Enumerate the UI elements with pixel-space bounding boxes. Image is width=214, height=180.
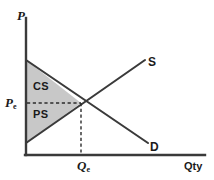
- supply-demand-diagram: P Pe Qe Qty S D CS PS: [0, 0, 214, 180]
- supply-curve-label: S: [148, 56, 156, 68]
- equilibrium-quantity-subscript: e: [86, 165, 90, 174]
- equilibrium-price-subscript: e: [13, 102, 17, 111]
- producer-surplus-label: PS: [33, 109, 48, 120]
- price-axis-label: P: [17, 9, 25, 22]
- equilibrium-quantity-label: Qe: [77, 159, 90, 174]
- consumer-surplus-label: CS: [33, 81, 49, 92]
- quantity-axis-label: Qty: [184, 161, 202, 172]
- demand-curve-label: D: [150, 141, 159, 153]
- equilibrium-quantity-base: Q: [77, 158, 86, 173]
- equilibrium-price-base: P: [5, 95, 13, 110]
- equilibrium-price-label: Pe: [5, 96, 17, 111]
